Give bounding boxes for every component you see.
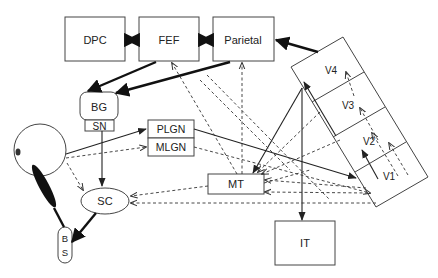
label-plgn: PLGN xyxy=(157,123,186,135)
label-sc: SC xyxy=(97,195,112,207)
label-fef: FEF xyxy=(159,34,180,46)
label-v1: V1 xyxy=(383,171,396,182)
eye-icon xyxy=(14,124,66,210)
node-parietal: Parietal xyxy=(213,17,274,61)
label-parietal: Parietal xyxy=(224,34,261,46)
label-it: IT xyxy=(300,237,310,249)
node-sc: SC xyxy=(81,188,129,214)
node-bs: B S xyxy=(58,227,72,263)
node-bg: BG xyxy=(80,92,118,120)
label-v3: V3 xyxy=(342,100,355,111)
node-it: IT xyxy=(275,221,335,265)
label-mlgn: MLGN xyxy=(156,141,186,153)
label-bs-b: B xyxy=(62,233,68,244)
node-mlgn: MLGN xyxy=(148,138,194,156)
node-dpc: DPC xyxy=(65,17,125,61)
label-v2: V2 xyxy=(363,136,376,147)
label-mt: MT xyxy=(228,178,244,190)
label-bs-s: S xyxy=(62,247,68,258)
node-sn: SN xyxy=(85,120,114,132)
visual-oculomotor-diagram: DPC FEF Parietal BG SN PLGN MLGN MT IT xyxy=(0,0,438,278)
label-v4: V4 xyxy=(325,65,338,76)
node-plgn: PLGN xyxy=(148,120,194,138)
label-sn: SN xyxy=(93,121,107,132)
label-dpc: DPC xyxy=(83,34,106,46)
label-bg: BG xyxy=(91,101,107,113)
node-fef: FEF xyxy=(139,17,199,61)
node-mt: MT xyxy=(208,174,264,194)
